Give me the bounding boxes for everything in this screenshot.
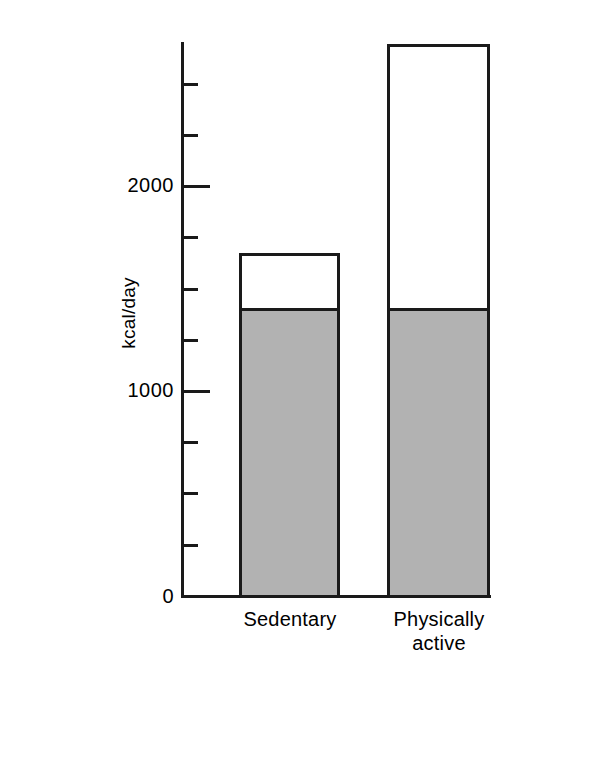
stacked-bar-chart-figure: 2000 1000 0 kcal/day Sedentary Physicall…: [0, 0, 591, 772]
y-tick-label-1000: 1000: [116, 380, 174, 400]
y-tick-label-2000: 2000: [116, 175, 174, 195]
category-label-physically-active-line2: active: [373, 632, 505, 655]
y-tick-2500: [184, 83, 198, 86]
y-axis-line: [181, 42, 184, 598]
y-tick-label-0: 0: [116, 586, 174, 606]
y-tick-1750: [184, 236, 198, 239]
bar-sedentary-basal-segment: [239, 308, 340, 598]
y-tick-1500: [184, 288, 198, 291]
bar-sedentary: [239, 253, 340, 598]
y-tick-1000: [184, 390, 210, 393]
category-label-physically-active-line1: Physically: [373, 608, 505, 631]
bar-physically-active-activity-segment: [387, 44, 490, 311]
y-tick-2250: [184, 134, 198, 137]
category-label-sedentary: Sedentary: [224, 608, 356, 631]
bar-physically-active: [387, 44, 490, 598]
y-tick-250: [184, 544, 198, 547]
y-tick-1250: [184, 339, 198, 342]
y-tick-750: [184, 441, 198, 444]
plot-area: 2000 1000 0 kcal/day Sedentary Physicall…: [0, 0, 591, 660]
y-tick-2000: [184, 185, 210, 188]
legend: Key: Basal energy expenditure Energy exp…: [0, 660, 591, 772]
bar-physically-active-basal-segment: [387, 308, 490, 598]
y-axis-title: kcal/day: [118, 259, 140, 367]
y-tick-500: [184, 492, 198, 495]
bar-sedentary-activity-segment: [239, 253, 340, 311]
